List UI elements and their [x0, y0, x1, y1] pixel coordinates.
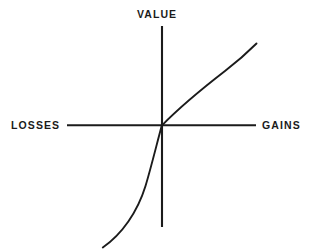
value-function-figure: VALUE LOSSES GAINS: [0, 0, 313, 252]
losses-branch-curve: [103, 124, 162, 248]
axis-label-value: VALUE: [0, 9, 313, 20]
axis-label-losses: LOSSES: [11, 120, 60, 131]
gains-branch-curve: [162, 44, 257, 126]
axis-label-gains: GAINS: [262, 120, 301, 131]
